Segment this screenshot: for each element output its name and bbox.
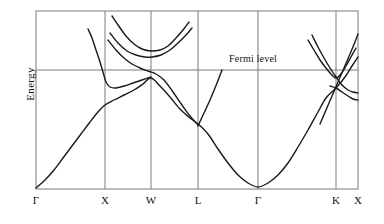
band-curve-valence-band-lower xyxy=(36,57,358,188)
x-tick-label-4: Γ xyxy=(246,194,270,206)
plot-frame xyxy=(36,11,358,189)
x-tick-label-1: X xyxy=(93,194,117,206)
x-tick-label-0: Γ xyxy=(24,194,48,206)
plot-frame-rect xyxy=(36,11,358,189)
band-curve-band-right-flat-tail xyxy=(330,86,358,100)
band-curves xyxy=(36,16,358,188)
x-tick-label-3: L xyxy=(186,194,210,206)
gridlines xyxy=(105,11,336,189)
x-tick-label-5: K xyxy=(324,194,348,206)
band-curve-band-right-steep xyxy=(320,34,358,124)
y-axis-label: Energy xyxy=(24,54,36,114)
fermi-level-label: Fermi level xyxy=(229,53,277,64)
band-curve-band-crossing-X-to-W-descending xyxy=(108,40,198,125)
plot-svg xyxy=(0,0,384,224)
x-tick-label-6: X xyxy=(346,194,370,206)
band-curve-band-right-K-lower xyxy=(312,35,358,93)
x-tick-label-2: W xyxy=(139,194,163,206)
band-curve-band-L-rising xyxy=(198,70,222,126)
band-curve-valence-band-upper-X-branch xyxy=(88,29,151,88)
